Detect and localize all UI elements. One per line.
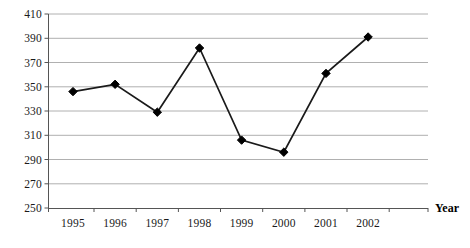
- y-tick-label: 390: [6, 32, 42, 44]
- y-tick-label: 330: [6, 105, 42, 117]
- y-axis-group: [45, 14, 49, 208]
- x-tick-label: 1998: [188, 217, 212, 229]
- x-axis-title: Year: [435, 201, 459, 216]
- data-point-marker: [69, 87, 77, 95]
- y-tick-label: 250: [6, 202, 42, 214]
- chart-canvas: [0, 0, 470, 248]
- x-tick-label: 1995: [61, 217, 85, 229]
- data-point-marker: [280, 148, 288, 156]
- y-tick-label: 410: [6, 8, 42, 20]
- x-axis-group: [49, 208, 429, 212]
- x-tick-label: 2001: [314, 217, 338, 229]
- x-tick-label: 1996: [103, 217, 127, 229]
- y-tick-label: 370: [6, 57, 42, 69]
- x-tick-label: 2000: [272, 217, 296, 229]
- y-tick-label: 310: [6, 129, 42, 141]
- line-chart: 250270290310330350370390410 199519961997…: [0, 0, 470, 248]
- y-tick-label: 290: [6, 154, 42, 166]
- gridlines-group: [49, 14, 429, 184]
- y-tick-label: 350: [6, 81, 42, 93]
- data-point-marker: [237, 136, 245, 144]
- y-tick-label: 270: [6, 178, 42, 190]
- x-tick-label: 2002: [356, 217, 380, 229]
- x-tick-label: 1999: [230, 217, 254, 229]
- x-tick-label: 1997: [145, 217, 169, 229]
- y-tick-marks: [45, 14, 49, 208]
